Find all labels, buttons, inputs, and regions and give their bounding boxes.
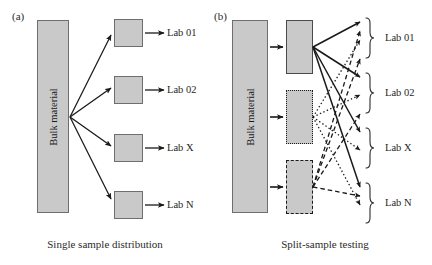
arrow-a-to-box-4 — [70, 117, 111, 199]
arrow-split3-to-lab1 — [313, 31, 360, 187]
brace-lab-1 — [366, 18, 374, 58]
arrow-split3-to-lab3 — [313, 114, 360, 187]
arrow-a-to-box-2 — [70, 88, 111, 117]
connector-overlay — [0, 0, 432, 265]
panel-b-split-arrows — [270, 47, 283, 187]
arrow-a-to-box-3 — [70, 117, 111, 146]
arrow-a-to-box-1 — [70, 35, 111, 117]
panel-a-lab-arrows — [145, 33, 164, 205]
figure-canvas: (a) Bulk material Lab 01 Lab 02 Lab X La… — [0, 0, 432, 265]
brace-lab-3 — [366, 128, 374, 168]
arrow-split1-to-lab1 — [313, 22, 360, 47]
arrow-split2-to-lab2 — [313, 95, 360, 117]
brace-lab-2 — [366, 73, 374, 113]
arrow-split1-to-lab4 — [313, 47, 360, 187]
panel-a-fan-arrows — [70, 35, 111, 199]
panel-b-lab-braces — [366, 18, 374, 223]
brace-lab-4 — [366, 183, 374, 223]
